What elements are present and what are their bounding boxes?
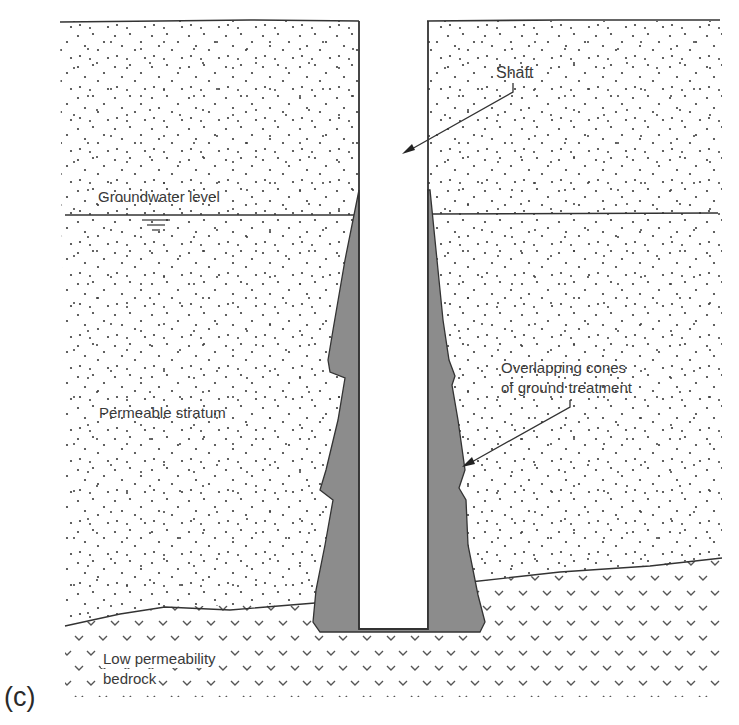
shaft-ground-treatment-diagram xyxy=(0,0,739,725)
cones-label-line1: Overlapping cones xyxy=(501,358,626,377)
shaft xyxy=(359,18,428,629)
cones-label-line2: of ground treatment xyxy=(501,378,632,397)
groundwater-level-label: Groundwater level xyxy=(98,187,220,206)
shaft-label: Shaft xyxy=(496,63,533,82)
bedrock-label-line2: bedrock xyxy=(101,669,158,688)
permeable-stratum-label: Permeable stratum xyxy=(99,403,226,422)
panel-label: (c) xyxy=(4,682,35,713)
bedrock-label-line1: Low permeability xyxy=(101,649,218,668)
